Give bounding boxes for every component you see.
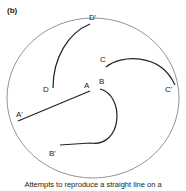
- point-b-prime-label: B': [49, 149, 56, 158]
- point-a-prime-label: A': [16, 110, 23, 119]
- line-d-d-prime: [53, 24, 90, 88]
- point-c-label: C: [100, 55, 106, 64]
- line-a-a-prime: [18, 91, 90, 121]
- figure-caption: Attempts to reproduce a straight line on…: [0, 180, 186, 189]
- point-c-prime-label: C': [165, 85, 173, 94]
- point-a-label: A: [84, 81, 90, 90]
- point-d-prime-label: D': [89, 13, 97, 22]
- line-c-c-prime: [106, 59, 175, 85]
- diagram: D' D C C' A B A' B': [0, 0, 186, 191]
- sphere-circle: [7, 18, 179, 178]
- line-b-b-prime: [60, 89, 117, 145]
- point-d-label: D: [43, 85, 49, 94]
- point-b-label: B: [99, 77, 104, 86]
